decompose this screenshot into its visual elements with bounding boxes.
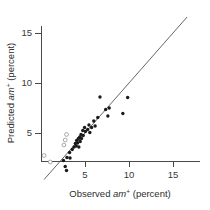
y-tick-group [35,33,41,133]
data-point-filled [88,131,91,134]
y-ticklabel-15: 15 [21,27,32,38]
data-point-filled [80,137,83,140]
data-point-filled [83,126,86,129]
data-point-open [62,143,66,147]
x-title-italic: am [113,188,126,199]
data-point-filled [90,126,93,129]
x-ticklabel-15: 15 [168,169,179,180]
y-title-italic: am [5,87,16,100]
y-title-trail: (percent) [5,43,16,84]
data-point-filled [82,134,85,137]
x-ticklabel-group: 51015 [82,169,178,180]
one-to-one-line [44,17,187,180]
data-point-filled [68,151,71,154]
data-point-filled [104,108,107,111]
one-to-one-line [44,17,187,180]
data-point-filled [87,123,90,126]
data-point-filled [77,145,80,148]
y-ticklabel-group: 51015 [21,27,32,138]
data-point-filled [78,140,81,143]
scatter-plot-figure: 51015 51015 Observed am+ (percent) Predi… [0,0,210,210]
y-axis-title: Predicted am+ (percent) [5,43,17,143]
data-point-filled [106,114,109,117]
data-point-filled [126,96,129,99]
svg-text:Observed am+ (percent): Observed am+ (percent) [69,188,170,200]
x-ticklabel-5: 5 [82,169,87,180]
data-point-filled [65,169,68,172]
data-point-filled [96,116,99,119]
x-axis-title: Observed am+ (percent) [69,188,170,200]
plot-canvas: 51015 51015 Observed am+ (percent) Predi… [0,0,210,210]
data-point-open [63,138,67,142]
data-point-filled [86,128,89,131]
svg-text:Predicted am+ (percent): Predicted am+ (percent) [5,43,17,143]
data-point-filled [93,124,96,127]
y-ticklabel-10: 10 [21,77,32,88]
data-point-filled [65,156,68,159]
x-tick-group [85,161,173,167]
y-ticklabel-5: 5 [27,127,32,138]
data-point-open [42,154,46,158]
data-point-open [65,133,69,137]
x-title-trail: (percent) [130,188,171,199]
data-point-filled [68,156,71,159]
data-point-filled [108,106,111,109]
data-point-filled [121,112,124,115]
data-point-filled [63,165,66,168]
x-title-lead: Observed [69,188,113,199]
data-point-filled [98,95,101,98]
y-title-lead: Predicted [5,100,16,143]
data-point-open [48,160,52,164]
data-point-filled [62,159,65,162]
x-ticklabel-10: 10 [124,169,135,180]
data-point-filled [92,119,95,122]
